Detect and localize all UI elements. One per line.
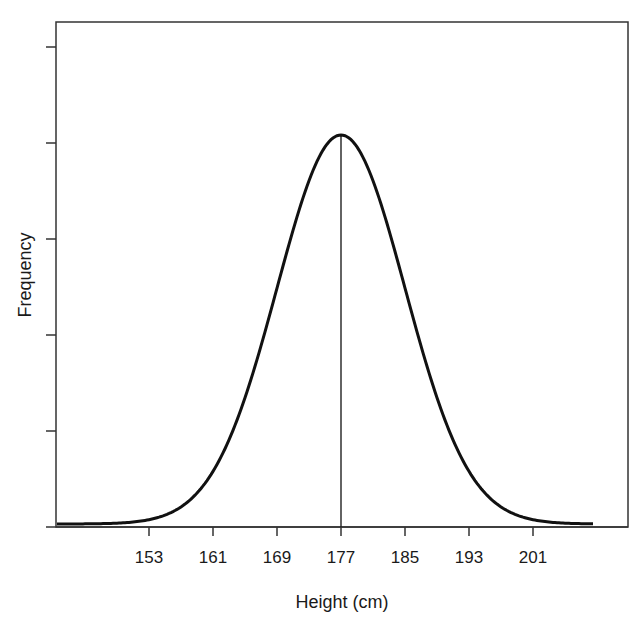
normal-distribution-chart: 153161169177185193201 Height (cm) Freque… <box>0 0 644 627</box>
y-axis-title: Frequency <box>15 232 35 317</box>
x-tick-label: 153 <box>135 548 163 567</box>
plot-frame <box>56 22 628 527</box>
x-axis-title: Height (cm) <box>295 592 388 612</box>
x-axis-ticks: 153161169177185193201 <box>135 527 547 567</box>
x-tick-label: 185 <box>391 548 419 567</box>
x-tick-label: 161 <box>199 548 227 567</box>
distribution-curve <box>57 135 593 524</box>
x-tick-label: 169 <box>263 548 291 567</box>
y-axis-ticks <box>46 47 56 431</box>
x-tick-label: 201 <box>519 548 547 567</box>
x-tick-label: 193 <box>455 548 483 567</box>
x-tick-label: 177 <box>327 548 355 567</box>
